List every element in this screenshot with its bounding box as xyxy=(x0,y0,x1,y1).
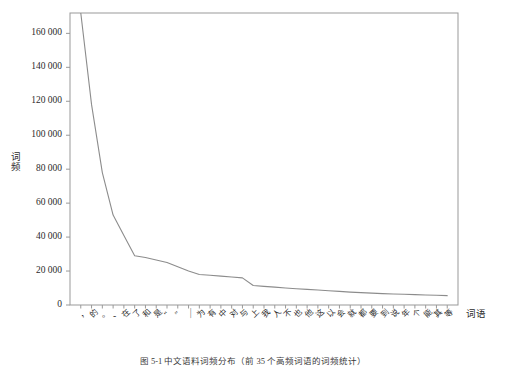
figure-caption: 图 5-1 中文语料词频分布（前 35 个高频词语的词频统计） xyxy=(0,354,506,366)
x-tick-label: ” xyxy=(173,309,182,318)
x-tick-label: 等 xyxy=(442,306,455,319)
x-axis-tick-labels: ，的。、在了和是“”／为有中对与上我人不也他这以会就都要到说年个能其等 xyxy=(0,0,506,366)
figure-word-frequency: 词频 词语 020 00040 00060 00080 000100 00012… xyxy=(0,0,506,366)
x-tick-label: “ xyxy=(162,309,171,318)
